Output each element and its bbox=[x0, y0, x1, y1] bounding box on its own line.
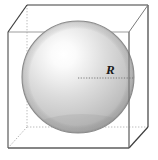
figure-canvas: R bbox=[0, 0, 158, 160]
hidden-edge-bottom-left-diagonal bbox=[8, 127, 27, 148]
sphere-lower-shadow bbox=[20, 114, 144, 160]
edge-top-right-diagonal bbox=[129, 5, 148, 32]
edge-top-left-diagonal bbox=[8, 5, 27, 32]
sphere-in-cube-figure: R bbox=[0, 0, 158, 160]
radius-label: R bbox=[105, 62, 115, 77]
sphere bbox=[20, 21, 144, 160]
edge-bottom-right-diagonal bbox=[129, 127, 148, 148]
